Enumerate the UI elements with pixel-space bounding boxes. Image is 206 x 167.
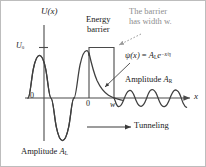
wave-decay-in-barrier [89, 53, 124, 101]
tunneling-figure: U(x) U0 0 0 w x Energy barrier The barri… [0, 0, 206, 167]
amplitude-right-label: Amplitude AR [125, 75, 172, 85]
wavefunction-equation: ψ(x) = ALe−x/η [125, 51, 171, 61]
tunneling-label: Tunneling [134, 121, 169, 131]
x-width-label: w [110, 101, 115, 110]
y-tick-label-u0: U0 [16, 42, 24, 51]
barrier-width-annotation: The barrier has width w. [129, 7, 172, 26]
energy-barrier-rect [89, 48, 114, 99]
y-axis-label: U(x) [41, 6, 58, 16]
x-origin-label: 0 [86, 100, 90, 109]
wave-left-incident [28, 51, 89, 141]
x-axis-label: x [194, 91, 198, 101]
annotation-leader-line [119, 34, 141, 45]
origin-label: 0 [30, 92, 34, 101]
amplitude-left-label: Amplitude AL [21, 147, 68, 157]
energy-barrier-label: Energy barrier [86, 15, 110, 34]
